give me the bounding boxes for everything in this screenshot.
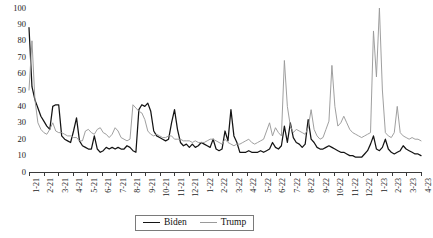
y-tick-label: 70	[18, 53, 27, 62]
x-axis-tick	[102, 172, 103, 176]
plot-area	[29, 8, 421, 172]
x-axis-tick	[44, 172, 45, 176]
x-axis-tick	[131, 172, 132, 176]
x-tick-label: 3-22	[236, 178, 244, 193]
x-tick-label: 9-21	[149, 178, 157, 193]
x-axis-tick	[218, 172, 219, 176]
x-axis-tick	[145, 172, 146, 176]
x-axis-tick	[160, 172, 161, 176]
x-axis-tick	[203, 172, 204, 176]
x-tick-label: 7-22	[294, 178, 302, 193]
x-tick-label: 8-21	[134, 178, 142, 193]
x-tick-label: 5-21	[91, 178, 99, 193]
x-axis-tick	[58, 172, 59, 176]
x-axis-tick	[174, 172, 175, 176]
x-tick-label: 4-21	[76, 178, 84, 193]
x-axis-tick	[261, 172, 262, 176]
x-tick-label: 7-21	[120, 178, 128, 193]
chart-legend: Biden Trump	[135, 215, 254, 231]
legend-swatch-trump	[200, 222, 217, 223]
x-axis-tick	[319, 172, 320, 176]
y-tick-label: 60	[18, 69, 27, 78]
y-tick-label: 10	[18, 151, 27, 160]
x-axis-tick	[189, 172, 190, 176]
y-tick-label: 0	[22, 168, 26, 177]
x-tick-label: 8-22	[308, 178, 316, 193]
x-axis-tick	[73, 172, 74, 176]
x-axis-tick	[363, 172, 364, 176]
y-tick-label: 50	[18, 86, 27, 95]
x-tick-label: 2-21	[47, 178, 55, 193]
y-tick-label: 40	[18, 102, 27, 111]
legend-item-biden: Biden	[143, 217, 187, 228]
legend-label-biden: Biden	[164, 217, 187, 228]
series-lines	[29, 8, 421, 172]
x-tick-label: 11-21	[178, 178, 186, 196]
x-axis-tick	[334, 172, 335, 176]
x-tick-label: 9-22	[323, 178, 331, 193]
y-tick-label: 90	[18, 20, 27, 29]
y-tick-label: 20	[18, 135, 27, 144]
x-tick-label: 3-21	[62, 178, 70, 193]
x-tick-label: 12-21	[192, 178, 200, 197]
x-axis-tick	[406, 172, 407, 176]
x-tick-label: 10-21	[163, 178, 171, 197]
series-line-biden	[29, 28, 421, 158]
x-tick-label: 1-22	[207, 178, 215, 193]
x-tick-label: 1-21	[33, 178, 41, 193]
x-axis-tick	[232, 172, 233, 176]
legend-label-trump: Trump	[221, 217, 247, 228]
x-axis-tick	[377, 172, 378, 176]
x-axis-tick	[247, 172, 248, 176]
x-tick-label: 2-23	[395, 178, 403, 193]
x-tick-label: 2-22	[221, 178, 229, 193]
x-axis-tick	[421, 172, 422, 176]
x-tick-label: 6-21	[105, 178, 113, 193]
x-tick-label: 6-22	[279, 178, 287, 193]
x-axis-tick	[276, 172, 277, 176]
x-axis-tick	[392, 172, 393, 176]
x-axis-labels: 1-212-213-214-215-216-217-218-219-2110-2…	[29, 178, 421, 212]
x-tick-label: 10-22	[337, 178, 345, 197]
x-tick-label: 12-22	[366, 178, 374, 197]
x-axis-tick	[305, 172, 306, 176]
legend-item-trump: Trump	[200, 217, 247, 228]
x-axis-tick	[87, 172, 88, 176]
x-tick-label: 3-23	[410, 178, 418, 193]
x-axis-tick	[290, 172, 291, 176]
x-axis-tick	[116, 172, 117, 176]
legend-swatch-biden	[143, 222, 160, 223]
x-tick-label: 11-22	[352, 178, 360, 196]
y-axis-labels: 1009080706050403020100	[0, 0, 26, 180]
x-tick-label: 4-22	[250, 178, 258, 193]
y-tick-label: 80	[18, 36, 27, 45]
y-tick-label: 100	[13, 4, 26, 13]
x-axis-tick	[29, 172, 30, 176]
x-tick-label: 5-22	[265, 178, 273, 193]
x-tick-label: 4-23	[425, 178, 433, 193]
y-tick-label: 30	[18, 118, 27, 127]
x-axis-tick	[348, 172, 349, 176]
series-line-trump	[29, 8, 421, 146]
x-tick-label: 1-23	[381, 178, 389, 193]
